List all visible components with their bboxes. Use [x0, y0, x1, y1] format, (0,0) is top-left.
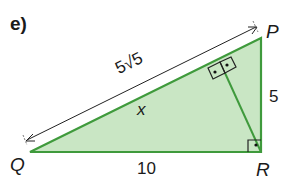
arrowhead-q-icon	[26, 134, 35, 141]
part-label: e)	[10, 14, 27, 33]
triangle-diagram: e) P Q R 5 10 5√5 x	[0, 0, 297, 183]
vertex-r-label: R	[256, 160, 270, 179]
right-angle-dot-foot-left	[213, 70, 216, 73]
right-angle-dot-foot-right	[225, 63, 228, 66]
side-pr-label: 5	[269, 88, 278, 105]
side-qr-label: 10	[137, 160, 156, 177]
triangle-figure	[0, 0, 297, 183]
unknown-x-label: x	[137, 101, 146, 118]
vertex-q-label: Q	[10, 155, 25, 174]
right-angle-dot-r	[254, 143, 257, 146]
triangle-pqr	[30, 38, 261, 152]
vertex-p-label: P	[266, 22, 279, 41]
